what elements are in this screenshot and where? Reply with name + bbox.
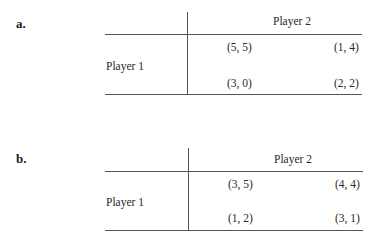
- game-label: a.: [16, 16, 26, 32]
- vertical-divider: [187, 12, 188, 94]
- vertical-divider: [188, 148, 189, 230]
- bottom-rule: [105, 94, 362, 95]
- row-player-label: Player 1: [106, 196, 144, 208]
- payoff-cell: (5, 5): [227, 41, 252, 53]
- payoff-cell: (3, 5): [228, 178, 253, 190]
- column-player-label: Player 2: [273, 15, 311, 27]
- bottom-rule: [105, 230, 363, 231]
- payoff-cell: (3, 0): [227, 77, 252, 89]
- header-rule: [105, 171, 363, 172]
- payoff-cell: (1, 4): [334, 41, 359, 53]
- payoff-cell: (3, 1): [335, 212, 360, 224]
- header-rule: [105, 34, 362, 35]
- row-player-label: Player 1: [106, 60, 144, 72]
- game-label: b.: [16, 151, 26, 167]
- payoff-cell: (4, 4): [335, 178, 360, 190]
- payoff-cell: (2, 2): [334, 77, 359, 89]
- column-player-label: Player 2: [274, 153, 312, 165]
- payoff-cell: (1, 2): [228, 212, 253, 224]
